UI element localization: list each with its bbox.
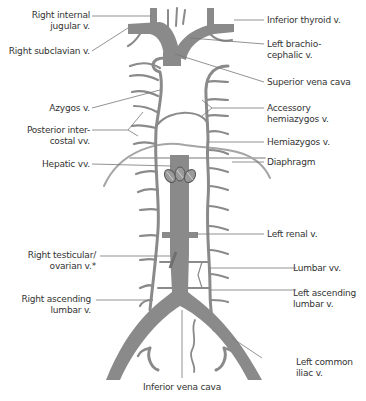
vena-cava-diagram: Right internal jugular v. Right subclavi… xyxy=(0,0,366,401)
label-left-common-iliac: Left common iliac v. xyxy=(296,357,353,379)
label-left-brachiocephalic: Left brachio- cephalic v. xyxy=(267,39,321,61)
superior-vena-cava-trunk xyxy=(163,52,181,66)
label-superior-vena-cava: Superior vena cava xyxy=(267,77,351,88)
label-right-subclavian: Right subclavian v. xyxy=(9,46,90,57)
label-left-ascending-lumbar: Left ascending lumbar v. xyxy=(293,288,356,310)
label-posterior-intercostal: Posterior inter- costal vv. xyxy=(27,125,90,147)
label-azygos: Azygos v. xyxy=(49,103,90,114)
label-diaphragm: Diaphragm xyxy=(267,157,315,168)
label-hepatic: Hepatic vv. xyxy=(42,159,90,170)
label-inferior-thyroid: Inferior thyroid v. xyxy=(267,15,341,26)
label-right-internal-jugular: Right internal jugular v. xyxy=(32,10,90,32)
label-inferior-vena-cava: Inferior vena cava xyxy=(130,382,234,393)
label-right-ascending-lumbar: Right ascending lumbar v. xyxy=(21,294,91,316)
label-hemiazygos: Hemiazygos v. xyxy=(267,137,330,148)
label-lumbar: Lumbar vv. xyxy=(293,263,341,274)
renal-vein-left xyxy=(188,232,198,238)
label-accessory-hemiazygos: Accessory hemiazygos v. xyxy=(267,103,329,125)
ivc-lower xyxy=(106,252,262,380)
renal-vein-right xyxy=(162,232,172,238)
label-left-renal: Left renal v. xyxy=(267,229,317,240)
label-right-testicular-ovarian: Right testicular/ ovarian v.* xyxy=(28,250,96,272)
left-brachiocephalic-vein xyxy=(174,24,234,60)
